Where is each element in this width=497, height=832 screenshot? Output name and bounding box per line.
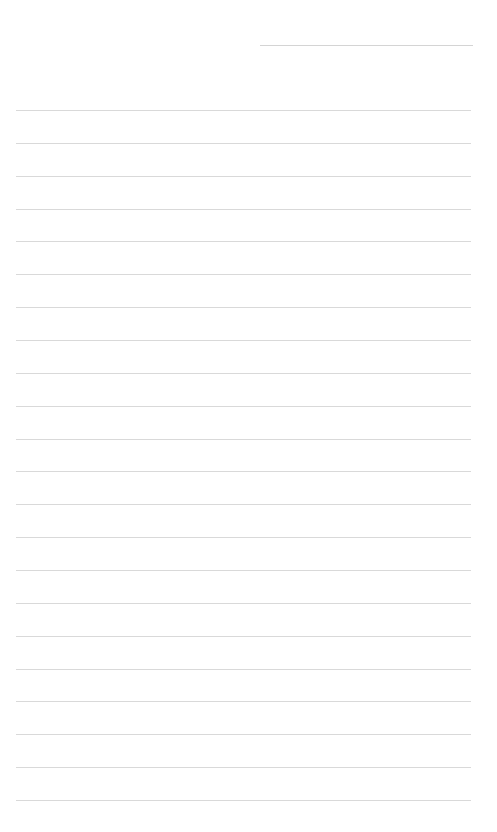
ruled-line — [16, 406, 471, 407]
ruled-line — [16, 307, 471, 308]
ruled-line — [16, 570, 471, 571]
ruled-line — [16, 373, 471, 374]
ruled-line — [16, 209, 471, 210]
ruled-line — [16, 471, 471, 472]
ruled-line — [16, 800, 471, 801]
ruled-line — [16, 603, 471, 604]
ruled-line — [16, 636, 471, 637]
ruled-line — [16, 340, 471, 341]
ruled-line — [16, 439, 471, 440]
ruled-line — [16, 176, 471, 177]
ruled-line — [16, 274, 471, 275]
ruled-line — [16, 701, 471, 702]
ruled-line — [16, 734, 471, 735]
ruled-line — [16, 241, 471, 242]
header-name-line — [260, 45, 473, 46]
ruled-line — [16, 767, 471, 768]
ruled-line — [16, 504, 471, 505]
ruled-line — [16, 669, 471, 670]
ruled-line — [16, 143, 471, 144]
ruled-line — [16, 110, 471, 111]
ruled-line — [16, 537, 471, 538]
